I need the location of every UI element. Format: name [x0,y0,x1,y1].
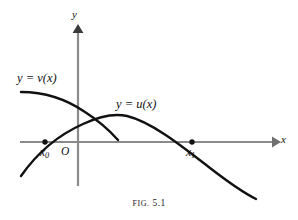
x-axis-label-text: x [281,133,286,145]
point-x0-marker [42,139,47,144]
y-axis-label-text: y [72,8,77,20]
figure-caption: FIG. 5.1 [0,198,298,208]
point-x1-label: x1 [186,147,195,161]
curve-u-label-text: y = u(x) [116,97,156,111]
figure-caption-prefix: FIG. [132,199,149,208]
y-axis-arrow-icon [73,24,84,33]
curve-u-label: y = u(x) [116,98,156,111]
curve-v-label: y = v(x) [17,72,57,85]
x-axis-label: x [281,134,286,145]
point-x1-label-subscript: 1 [191,151,195,160]
origin-label: O [61,146,69,158]
point-x1-marker [189,139,194,144]
point-x0-label: x0 [40,147,49,161]
curve-v-label-text: y = v(x) [17,71,57,85]
curve-u [21,115,256,199]
point-x0-label-subscript: 0 [45,151,49,160]
origin-label-text: O [61,145,69,157]
figure-caption-number: 5.1 [153,198,166,208]
y-axis-label: y [72,9,77,20]
x-axis-arrow-icon [272,136,281,147]
figure-container: y = v(x) y = u(x) x y O x0 x1 FIG. 5.1 [0,0,298,220]
